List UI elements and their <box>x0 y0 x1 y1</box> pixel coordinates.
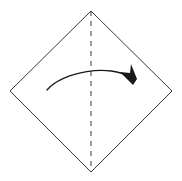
fold-diagram-container <box>0 0 182 181</box>
fold-diagram-canvas <box>0 0 182 181</box>
